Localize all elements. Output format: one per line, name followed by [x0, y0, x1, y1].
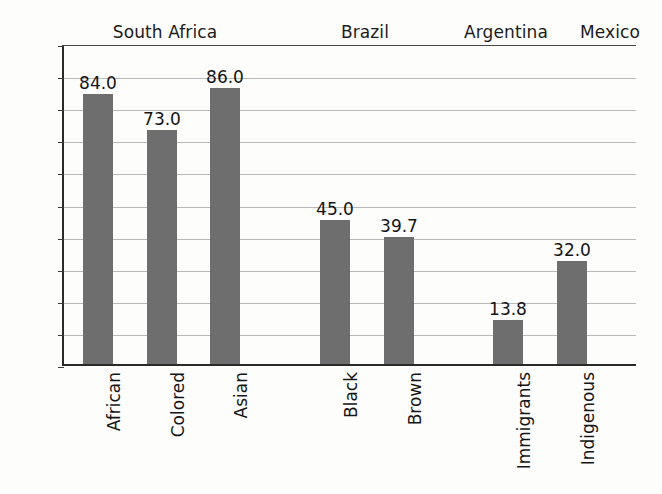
group-header-south-africa: South Africa	[85, 22, 245, 42]
group-header-mexico: Mexico	[562, 22, 658, 42]
x-axis-category-label: Indigenous	[578, 372, 598, 465]
bar-value-label: 13.8	[473, 299, 543, 319]
y-axis-tick-mark	[58, 46, 64, 47]
bar[interactable]	[147, 130, 177, 364]
x-axis-category-label: African	[104, 372, 124, 431]
bar[interactable]	[493, 320, 523, 364]
y-axis-tick-mark	[58, 207, 64, 208]
bar-value-label: 86.0	[190, 67, 260, 87]
y-axis-tick-mark	[58, 239, 64, 240]
x-axis-category-label: Black	[341, 372, 361, 418]
bar-value-label: 45.0	[300, 199, 370, 219]
gridline	[64, 78, 636, 79]
x-axis-category-label: Brown	[405, 372, 425, 425]
bar-chart: South Africa Brazil Argentina Mexico 100…	[0, 0, 662, 494]
y-axis-tick-mark	[58, 142, 64, 143]
bar[interactable]	[320, 220, 350, 364]
plot-area: 84.073.086.045.039.713.832.0	[62, 45, 636, 366]
bar[interactable]	[83, 94, 113, 364]
y-axis-tick-mark	[58, 367, 64, 368]
y-axis-tick-mark	[58, 303, 64, 304]
bar-value-label: 73.0	[127, 109, 197, 129]
bar-value-label: 32.0	[537, 240, 607, 260]
y-axis-tick-mark	[58, 335, 64, 336]
bar[interactable]	[557, 261, 587, 364]
group-header-argentina: Argentina	[443, 22, 569, 42]
x-axis-category-label: Asian	[231, 372, 251, 418]
bar-value-label: 84.0	[63, 73, 133, 93]
bar[interactable]	[384, 237, 414, 364]
bar-value-label: 39.7	[364, 216, 434, 236]
group-header-brazil: Brazil	[305, 22, 425, 42]
bar[interactable]	[210, 88, 240, 364]
x-axis-category-label: Immigrants	[514, 372, 534, 469]
y-axis-tick-mark	[58, 174, 64, 175]
y-axis-tick-mark	[58, 271, 64, 272]
y-axis-tick-mark	[58, 110, 64, 111]
x-axis-category-label: Colored	[168, 372, 188, 437]
